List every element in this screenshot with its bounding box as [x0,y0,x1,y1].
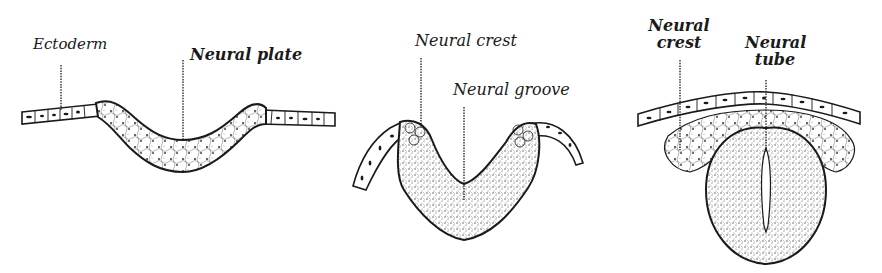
neural-plate [96,101,266,172]
label-neural-tube-line1: Neural [745,34,805,51]
label-neural-crest-3: Neural crest [644,17,714,51]
panel-neural-plate [22,60,335,172]
label-neural-tube: Neural tube [745,34,805,68]
label-neural-groove: Neural groove [453,81,570,98]
label-neural-crest-3-line1: Neural [644,17,714,34]
panel-neural-tube [638,60,860,264]
label-neural-crest: Neural crest [415,32,517,49]
label-neural-crest-3-line2: crest [644,34,714,51]
label-neural-plate: Neural plate [190,46,302,63]
label-neural-tube-line2: tube [745,51,805,68]
label-ectoderm: Ectoderm [33,36,107,53]
neural-canal [762,148,771,232]
